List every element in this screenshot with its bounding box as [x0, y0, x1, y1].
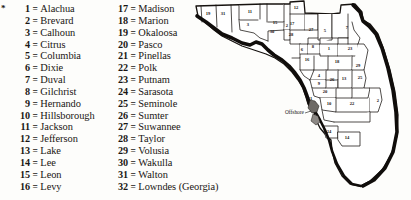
legend-item-label: Suwannee — [138, 121, 180, 132]
legend-item: 3=Calhoun — [0, 27, 108, 39]
county-legend: * 1=Alachua 2=Brevard 3=Calhoun 4=Citrus… — [0, 0, 200, 200]
legend-item-label: Pinellas — [138, 50, 171, 61]
legend-item-number: 9 — [0, 98, 30, 110]
offshore-label: Offshore — [285, 109, 305, 115]
legend-item: 6=Dixie — [0, 62, 108, 74]
legend-item-number: 10 — [0, 110, 30, 122]
legend-item-number: 15 — [0, 169, 30, 181]
county-marker: 21 — [308, 96, 313, 101]
legend-item-label: Duval — [40, 74, 65, 85]
legend-item-number: 5 — [0, 50, 30, 62]
legend-item: 14=Lee — [0, 157, 108, 169]
county-marker: 26 — [330, 77, 335, 82]
legend-item-label: Wakulla — [138, 157, 172, 168]
legend-item-label: Gilchrist — [40, 86, 76, 97]
legend-item-label: Leon — [40, 169, 61, 180]
legend-item: 16=Levy — [0, 181, 108, 193]
legend-item-number: 2 — [0, 15, 30, 27]
county-marker: 25 — [358, 75, 363, 80]
county-marker: 30 — [270, 29, 275, 34]
legend-item: 9=Hernando — [0, 98, 108, 110]
county-marker: 20 — [323, 89, 328, 94]
legend-separator: = — [128, 182, 138, 194]
county-marker: 19 — [206, 11, 211, 16]
legend-item-label: Hillsborough — [40, 110, 94, 121]
legend-item: 11=Jackson — [0, 121, 108, 133]
legend-item-number: 23 — [108, 74, 128, 86]
legend-item-number: 1 — [0, 3, 30, 15]
legend-item-number: 4 — [0, 39, 30, 51]
county-marker: 29 — [356, 63, 361, 68]
legend-item-number: 8 — [0, 86, 30, 98]
legend-item-label: Madison — [138, 3, 174, 14]
legend-item-label: Lake — [40, 145, 61, 156]
legend-item-label: Hernando — [40, 98, 81, 109]
legend-column-left: * 1=Alachua 2=Brevard 3=Calhoun 4=Citrus… — [0, 3, 108, 193]
legend-item-number: 31 — [108, 169, 128, 181]
legend-item-label: Okaloosa — [138, 27, 177, 38]
legend-item-number: 6 — [0, 62, 30, 74]
legend-item-number: 25 — [108, 98, 128, 110]
legend-item-number: 7 — [0, 74, 30, 86]
county-marker: 23 — [348, 46, 353, 51]
legend-item-label: Volusia — [138, 145, 169, 156]
county-marker: 11 — [248, 9, 253, 14]
county-marker: 14 — [345, 135, 350, 140]
legend-item-number: 29 — [108, 145, 128, 157]
legend-item-label: Calhoun — [40, 27, 75, 38]
legend-item-number: 27 — [108, 121, 128, 133]
legend-item-label: Walton — [138, 169, 167, 180]
legend-item-number: 16 — [0, 181, 30, 193]
legend-item-number: 11 — [0, 121, 30, 133]
county-marker: 16 — [305, 57, 310, 62]
county-marker: 31 — [221, 11, 226, 16]
legend-item-number: 32 — [108, 181, 128, 193]
county-marker: 22 — [350, 101, 355, 106]
legend-item: 12=Jefferson — [0, 133, 108, 145]
florida-county-index-figure: * 1=Alachua 2=Brevard 3=Calhoun 4=Citrus… — [0, 0, 411, 200]
legend-item-label: Seminole — [138, 98, 177, 109]
county-marker: 24 — [327, 129, 332, 134]
county-marker: 28 — [289, 32, 294, 37]
legend-item-label: Levy — [40, 181, 61, 192]
county-marker: 13 — [342, 76, 347, 81]
legend-item: 7=Duval — [0, 74, 108, 86]
legend-item-label: Pasco — [138, 39, 162, 50]
legend-item-number: 20 — [108, 39, 128, 51]
legend-item-label: Columbia — [40, 50, 81, 61]
legend-item: 4=Citrus — [0, 39, 108, 51]
legend-item: 2=Brevard — [0, 15, 108, 27]
legend-item-label: Dixie — [40, 62, 63, 73]
legend-item-number: 14 — [0, 157, 30, 169]
offshore-leader-line — [305, 111, 311, 113]
county-marker: 12 — [294, 5, 299, 10]
legend-item-number: 12 — [0, 133, 30, 145]
legend-item-label: Taylor — [138, 133, 165, 144]
legend-item-label: Citrus — [40, 39, 65, 50]
legend-item-label: Jackson — [40, 121, 73, 132]
legend-item: 1=Alachua — [0, 3, 108, 15]
legend-item: 5=Columbia — [0, 50, 108, 62]
legend-item-number: 24 — [108, 86, 128, 98]
legend-item-number: 21 — [108, 50, 128, 62]
legend-item-label: Jefferson — [40, 133, 77, 144]
county-marker: 10 — [327, 101, 332, 106]
legend-item-number: 18 — [108, 15, 128, 27]
legend-item: 13=Lake — [0, 145, 108, 157]
legend-separator: = — [30, 182, 40, 194]
legend-item-label: Lee — [40, 157, 55, 168]
legend-item-label: Polk — [138, 62, 157, 73]
legend-item-label: Sumter — [138, 110, 168, 121]
county-marker: 17 — [290, 21, 295, 26]
legend-item-number: 22 — [108, 62, 128, 74]
legend-item-number: 17 — [108, 3, 128, 15]
florida-map: Offshore 19 31 11 3 12 15 30 2 28 17 27 … — [192, 0, 411, 200]
legend-item: 15=Leon — [0, 169, 108, 181]
legend-item-number: 13 — [0, 145, 30, 157]
legend-item: 10=Hillsborough — [0, 110, 108, 122]
legend-item-number: 26 — [108, 110, 128, 122]
legend-item: 8=Gilchrist — [0, 86, 108, 98]
county-marker: 27 — [309, 27, 314, 32]
legend-item-number: 30 — [108, 157, 128, 169]
legend-item-label: Marion — [138, 15, 168, 26]
